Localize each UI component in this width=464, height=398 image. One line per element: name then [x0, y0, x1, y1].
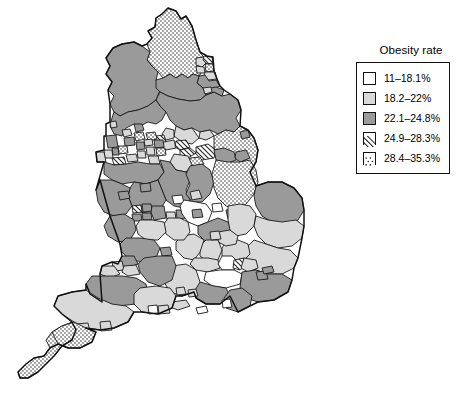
region-wigan[interactable]	[124, 137, 135, 146]
region-wolverhampton[interactable]	[132, 205, 142, 213]
region-rutland[interactable]	[212, 203, 223, 212]
region-trafford[interactable]	[137, 151, 146, 158]
choropleth-figure: Obesity rate 11–18.1% 18.2–22% 22.1–24.8…	[0, 0, 464, 398]
region-southampton[interactable]	[176, 287, 186, 295]
region-worcestershire[interactable]	[136, 220, 166, 240]
legend-label-3: 22.1–24.8%	[384, 113, 440, 124]
region-gateshead[interactable]	[196, 66, 205, 73]
region-south-tyneside[interactable]	[205, 64, 214, 72]
hatch-pattern-icon	[364, 136, 375, 147]
region-preston[interactable]	[122, 129, 132, 137]
legend-swatch-dotted	[363, 152, 376, 165]
legend-box: 11–18.1% 18.2–22% 22.1–24.8% 24.9–28.3%	[356, 62, 450, 174]
region-st-helens[interactable]	[118, 146, 128, 154]
region-blackpool[interactable]	[110, 121, 117, 128]
region-bolton[interactable]	[134, 132, 145, 141]
legend-row-5[interactable]: 28.4–35.3%	[363, 148, 445, 168]
legend-swatch-white	[363, 72, 376, 85]
region-leicester[interactable]	[192, 209, 203, 218]
region-small-island-south[interactable]	[196, 306, 208, 314]
region-walsall[interactable]	[142, 204, 152, 212]
region-warrington[interactable]	[126, 154, 138, 162]
legend-title: Obesity rate	[358, 44, 464, 56]
legend-row-2[interactable]: 18.2–22%	[363, 88, 445, 108]
region-isle-of-sheppey[interactable]	[262, 266, 274, 274]
region-swindon[interactable]	[160, 247, 172, 256]
region-york[interactable]	[199, 130, 214, 140]
legend-label-4: 24.9–28.3%	[384, 133, 440, 144]
region-knowsley[interactable]	[112, 148, 119, 155]
legend-label-5: 28.4–35.3%	[384, 153, 440, 164]
region-telford-wrekin[interactable]	[118, 191, 130, 200]
region-stoke-on-trent[interactable]	[140, 183, 151, 192]
map-legend: Obesity rate 11–18.1% 18.2–22% 22.1–24.8…	[356, 44, 464, 174]
region-sefton[interactable]	[106, 135, 118, 148]
region-banes[interactable]	[122, 265, 140, 276]
region-stockport[interactable]	[148, 156, 160, 164]
region-blackburn-darwen[interactable]	[134, 124, 144, 132]
legend-swatch-light-gray	[363, 92, 376, 105]
region-milton-keynes[interactable]	[210, 231, 221, 240]
legend-row-1[interactable]: 11–18.1%	[363, 68, 445, 88]
map-regions-layer	[18, 8, 304, 378]
legend-row-4[interactable]: 24.9–28.3%	[363, 128, 445, 148]
region-birmingham[interactable]	[151, 206, 166, 220]
legend-swatch-hatched	[363, 132, 376, 145]
region-manchester[interactable]	[146, 147, 155, 155]
region-warwickshire[interactable]	[164, 218, 190, 240]
region-lincolnshire[interactable]	[212, 160, 258, 208]
legend-label-2: 18.2–22%	[384, 93, 431, 104]
legend-row-3[interactable]: 22.1–24.8%	[363, 108, 445, 128]
dot-pattern-icon	[364, 156, 375, 167]
region-bury[interactable]	[144, 139, 153, 146]
region-salford[interactable]	[136, 142, 145, 150]
region-tameside[interactable]	[156, 148, 166, 156]
region-sandwell[interactable]	[142, 213, 152, 220]
legend-label-1: 11–18.1%	[384, 73, 431, 84]
legend-swatch-mid-gray	[363, 112, 376, 125]
england-obesity-map	[0, 0, 340, 398]
region-oldham[interactable]	[154, 140, 164, 148]
